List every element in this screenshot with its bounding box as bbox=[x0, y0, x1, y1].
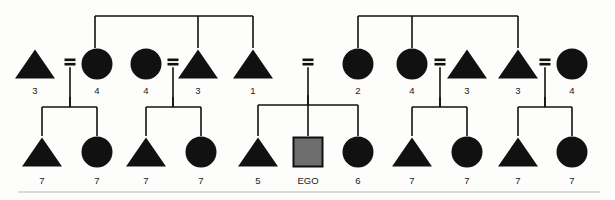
person-label-g2-n5: 5 bbox=[255, 175, 260, 186]
person-node-female-g1-n2[interactable] bbox=[82, 49, 113, 80]
person-label-g2-n10: 7 bbox=[515, 175, 520, 186]
person-label-g2-n4: 7 bbox=[198, 175, 203, 186]
person-label-g1-n2: 4 bbox=[94, 85, 99, 96]
person-label-g2-n9: 7 bbox=[464, 175, 469, 186]
person-node-female-g2-n9[interactable] bbox=[452, 137, 483, 168]
person-label-g2-n2: 7 bbox=[94, 175, 99, 186]
person-node-ego[interactable] bbox=[294, 138, 323, 167]
person-node-female-g1-n10[interactable] bbox=[557, 49, 588, 80]
person-label-g1-n3: 4 bbox=[143, 85, 148, 96]
person-node-female-g2-n11[interactable] bbox=[557, 137, 588, 168]
person-label-g1-n9: 3 bbox=[515, 85, 520, 96]
person-node-female-g2-n7[interactable] bbox=[343, 137, 374, 168]
person-label-g1-n10: 4 bbox=[569, 85, 574, 96]
person-node-female-g2-n2[interactable] bbox=[82, 137, 113, 168]
person-node-female-g1-n7[interactable] bbox=[397, 49, 428, 80]
pedigree-diagram: 344312433477775EGO67777 bbox=[0, 0, 615, 200]
person-label-g2-n11: 7 bbox=[569, 175, 574, 186]
person-label-g1-n1: 3 bbox=[32, 85, 37, 96]
person-label-g1-n5: 1 bbox=[250, 85, 255, 96]
person-label-g2-n8: 7 bbox=[409, 175, 414, 186]
person-label-g1-n8: 3 bbox=[464, 85, 469, 96]
person-label-g2-n7: 6 bbox=[355, 175, 360, 186]
person-label-g1-n6: 2 bbox=[355, 85, 360, 96]
person-label-g2-n3: 7 bbox=[143, 175, 148, 186]
person-node-female-g1-n3[interactable] bbox=[131, 49, 162, 80]
person-label-g2-n1: 7 bbox=[39, 175, 44, 186]
pedigree-canvas: 344312433477775EGO67777 bbox=[0, 0, 615, 200]
person-label-g1-n4: 3 bbox=[195, 85, 200, 96]
person-node-female-g1-n6[interactable] bbox=[343, 49, 374, 80]
person-label-g2-ego: EGO bbox=[297, 175, 318, 186]
person-node-female-g2-n4[interactable] bbox=[186, 137, 217, 168]
person-label-g1-n7: 4 bbox=[409, 85, 414, 96]
